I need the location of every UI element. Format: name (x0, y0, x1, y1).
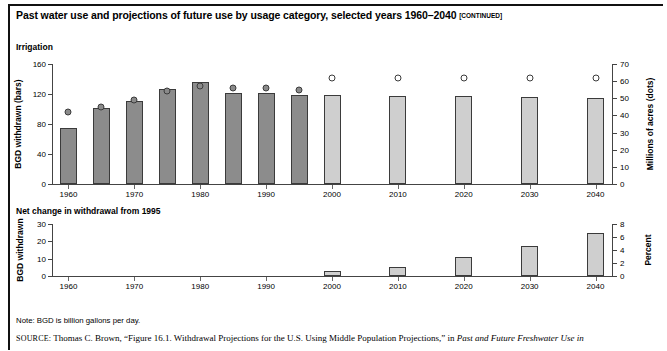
x-axis-tick-label: 1960 (60, 190, 78, 199)
data-point-dot (230, 85, 237, 92)
y-axis-right-tick-label: 50 (620, 94, 629, 103)
figure-container: Past water use and projections of future… (0, 0, 667, 351)
y-axis-left-tick (48, 124, 52, 125)
x-axis-tick-label: 1960 (60, 282, 78, 291)
source-text: Thomas C. Brown, “Figure 16.1. Withdrawa… (51, 333, 457, 343)
bar (192, 82, 209, 184)
x-axis-tick (596, 185, 597, 189)
x-axis-tick (68, 277, 69, 281)
y-axis-right-tick (613, 224, 617, 225)
bar (225, 93, 242, 184)
y-axis-left-title: BGD withdrawn (15, 218, 25, 281)
bar (324, 95, 341, 184)
y-axis-right-tick (613, 133, 617, 134)
x-axis-tick (332, 277, 333, 281)
y-axis-right-tick-label: 0 (620, 180, 624, 189)
y-axis-right-tick-label: 20 (620, 145, 629, 154)
x-axis-tick (464, 277, 465, 281)
x-axis-tick-label: 2030 (521, 282, 539, 291)
y-axis-right-tick (613, 237, 617, 238)
y-axis-right-tick (613, 64, 617, 65)
y-axis-right-tick-label: 8 (620, 220, 624, 229)
bar (60, 128, 77, 184)
data-point-dot (329, 74, 336, 81)
x-axis-tick (530, 277, 531, 281)
x-axis-tick-label: 1970 (125, 190, 143, 199)
data-point-dot (263, 85, 270, 92)
figure-title: Past water use and projections of future… (16, 9, 656, 21)
bar (93, 108, 110, 185)
x-axis-tick (134, 185, 135, 189)
y-axis-left-tick (48, 276, 52, 277)
x-axis-tick-label: 2040 (587, 282, 605, 291)
bar (455, 96, 472, 185)
frame-top-rule (8, 4, 663, 6)
panel-net-change: Net change in withdrawal from 1995 01020… (0, 204, 667, 309)
x-axis-tick-label: 2020 (455, 190, 473, 199)
x-axis-tick (398, 277, 399, 281)
panel-irrigation: Irrigation 04080120160010203040506070196… (0, 38, 667, 208)
y-axis-right-tick-label: 0 (620, 272, 624, 281)
y-axis-left-title: BGD withdrawn (bars) (13, 79, 23, 168)
data-point-dot (460, 74, 467, 81)
source-label: SOURCE: (16, 334, 51, 343)
y-axis-right-tick (613, 167, 617, 168)
y-axis-left-tick-label: 40 (22, 150, 46, 159)
y-axis-left-tick-label: 120 (22, 90, 46, 99)
x-axis-tick-label: 1980 (191, 190, 209, 199)
y-axis-left-tick-label: 10 (22, 254, 46, 263)
y-axis-left-tick (48, 259, 52, 260)
figure-title-text: Past water use and projections of future… (16, 9, 456, 21)
y-axis-right-tick-label: 30 (620, 128, 629, 137)
x-axis-tick (266, 185, 267, 189)
x-axis-tick (596, 277, 597, 281)
data-point-dot (164, 88, 171, 95)
y-axis-left-tick (48, 154, 52, 155)
x-axis-tick (398, 185, 399, 189)
y-axis-right-tick (613, 250, 617, 251)
x-axis-tick-label: 1990 (257, 282, 275, 291)
bar (258, 93, 275, 184)
y-axis-right-tick (613, 150, 617, 151)
y-axis-right-tick-label: 4 (620, 246, 624, 255)
data-point-dot (526, 74, 533, 81)
x-axis-tick-label: 2000 (323, 190, 341, 199)
y-axis-right-tick (613, 276, 617, 277)
data-point-dot (296, 86, 303, 93)
x-axis-tick-label: 2010 (389, 190, 407, 199)
y-axis-right-tick (613, 263, 617, 264)
x-axis-tick (266, 277, 267, 281)
bar (521, 246, 538, 276)
x-axis-tick-label: 1990 (257, 190, 275, 199)
bar (587, 233, 604, 276)
bar (587, 98, 604, 184)
data-point-dot (197, 83, 204, 90)
y-axis-right-tick-label: 70 (620, 60, 629, 69)
y-axis-right-tick (613, 98, 617, 99)
plot-area-net-change: 0102030024681960197019801990200020102020… (0, 204, 667, 309)
y-axis-right-tick (613, 115, 617, 116)
bar (291, 95, 308, 184)
x-axis-tick (530, 185, 531, 189)
y-axis-left-tick-label: 80 (22, 120, 46, 129)
y-axis-left-line (52, 64, 53, 185)
y-axis-right-tick-label: 6 (620, 233, 624, 242)
figure-source: SOURCE: Thomas C. Brown, “Figure 16.1. W… (16, 333, 584, 343)
x-axis-tick-label: 1970 (125, 282, 143, 291)
x-axis-tick (200, 277, 201, 281)
x-axis-tick-label: 2020 (455, 282, 473, 291)
data-point-dot (65, 109, 72, 116)
x-axis-tick-label: 1980 (191, 282, 209, 291)
y-axis-right-tick-label: 40 (620, 111, 629, 120)
figure-title-continued: [CONTINUED] (459, 12, 502, 19)
y-axis-right-tick-label: 10 (620, 162, 629, 171)
x-axis-tick-label: 2030 (521, 190, 539, 199)
x-axis-tick (134, 277, 135, 281)
y-axis-left-tick (48, 184, 52, 185)
bar (389, 267, 406, 276)
data-point-dot (98, 103, 105, 110)
source-publication-title: Past and Future Freshwater Use in (457, 333, 584, 343)
y-axis-right-title: Millions of acres (dots) (645, 78, 655, 171)
x-axis-tick (200, 185, 201, 189)
y-axis-right-tick (613, 184, 617, 185)
